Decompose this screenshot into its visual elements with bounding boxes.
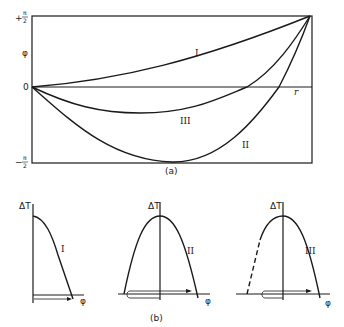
- subplot-b-II: [118, 202, 210, 300]
- arrow-icon: [306, 289, 312, 293]
- y-tick-bottom-sign: −: [15, 157, 23, 167]
- subplot-III-y-label: ΔT: [270, 201, 282, 211]
- curve-I: [32, 16, 310, 87]
- y-tick-top-num: π: [23, 9, 27, 16]
- y-tick-zero: 0: [23, 82, 29, 92]
- subplot-II-curve-label: II: [187, 246, 195, 256]
- curve-label-II: II: [242, 140, 250, 150]
- curve-label-I: I: [195, 48, 199, 58]
- curve-label-III: III: [180, 116, 191, 126]
- subplot-III-curve-label: III: [305, 246, 316, 256]
- subplot-III-dashed-segment: [247, 240, 260, 294]
- arrow-icon: [186, 289, 192, 293]
- subplot-III-curve: [260, 216, 320, 298]
- panel-a-labels: + π 2 φ 0 − π 2 r I II III (a): [15, 9, 299, 176]
- subplot-III-x-label: φ: [325, 298, 331, 308]
- y-axis-label-phi: φ: [22, 48, 28, 58]
- subplot-II-curve: [124, 216, 198, 298]
- caption-a: (a): [165, 166, 178, 176]
- subplot-b-I-labels: ΔT I φ: [19, 201, 86, 306]
- y-tick-top-sign: +: [15, 13, 23, 23]
- curve-II: [32, 16, 310, 162]
- y-tick-bottom-den: 2: [23, 162, 27, 169]
- subplot-II-x-label: φ: [205, 296, 211, 306]
- subplot-I-x-label: φ: [80, 296, 86, 306]
- subplot-b-III: [236, 202, 330, 300]
- subplot-b-I: [33, 204, 84, 303]
- subplot-b-II-labels: ΔT II φ (b): [148, 201, 211, 323]
- y-tick-bottom-num: π: [23, 154, 27, 161]
- y-tick-top-den: 2: [23, 17, 27, 24]
- caption-b: (b): [150, 313, 163, 323]
- subplot-I-curve-label: I: [61, 244, 65, 254]
- panel-a-frame: [32, 16, 312, 163]
- subplot-II-y-label: ΔT: [148, 201, 160, 211]
- subplot-I-y-label: ΔT: [19, 201, 31, 211]
- panel-a: [32, 16, 312, 163]
- figure: + π 2 φ 0 − π 2 r I II III (a) ΔT I φ Δ: [0, 0, 344, 327]
- curve-III: [32, 16, 310, 113]
- subplot-I-curve: [33, 216, 73, 299]
- arrow-icon: [67, 297, 72, 301]
- x-axis-label-r: r: [294, 87, 299, 97]
